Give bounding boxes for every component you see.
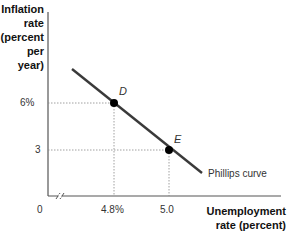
y-axis-label-line: Inflation [0,2,44,16]
origin-label: 0 [37,204,43,215]
point-d-label: D [119,85,127,97]
x-axis-label: Unemployment rate (percent) [207,204,286,232]
y-axis-label-line: per year) [0,44,44,72]
y-tick-3: 3 [35,144,41,155]
point-e [165,146,173,154]
point-e-label: E [174,133,181,145]
guide-lines [48,103,169,196]
x-tick-4-8: 4.8% [101,204,124,215]
x-axis-label-line: Unemployment [207,204,286,218]
y-axis-label-line: (percent [0,30,44,44]
x-axis-label-line: rate (percent) [207,218,286,232]
phillips-curve-label: Phillips curve [208,168,267,179]
phillips-curve-line [72,69,202,173]
y-tick-6: 6% [20,97,34,108]
point-d [110,99,118,107]
x-tick-5-0: 5.0 [160,204,174,215]
y-axis-label: Inflation rate (percent per year) [0,2,44,72]
y-axis-label-line: rate [0,16,44,30]
